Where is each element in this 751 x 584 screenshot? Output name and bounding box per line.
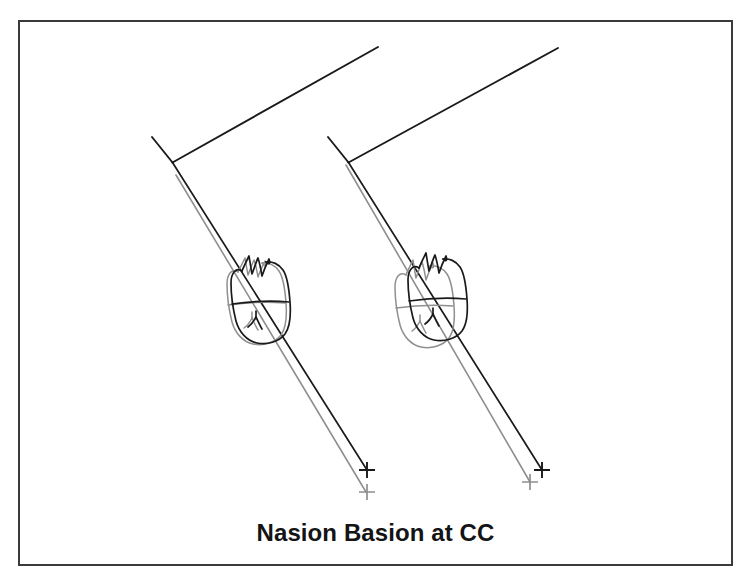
right-panel (328, 48, 558, 490)
right-molar-tracing-black (408, 253, 467, 341)
left-molar-tracing-black (231, 256, 290, 344)
left-nasion-basion-line-gray (176, 175, 366, 492)
right-cc-cross-black (534, 462, 550, 478)
right-molar-tracing-gray (395, 260, 454, 348)
tracing-canvas (0, 0, 751, 584)
left-cc-cross-black (359, 462, 375, 478)
figure-root: Nasion Basion at CC (0, 0, 751, 584)
left-nasion-basion-line-black (152, 47, 378, 470)
figure-caption: Nasion Basion at CC (0, 518, 751, 548)
right-cc-cross-gray (522, 474, 538, 490)
left-cc-cross-gray (359, 484, 375, 500)
left-panel (152, 47, 378, 500)
